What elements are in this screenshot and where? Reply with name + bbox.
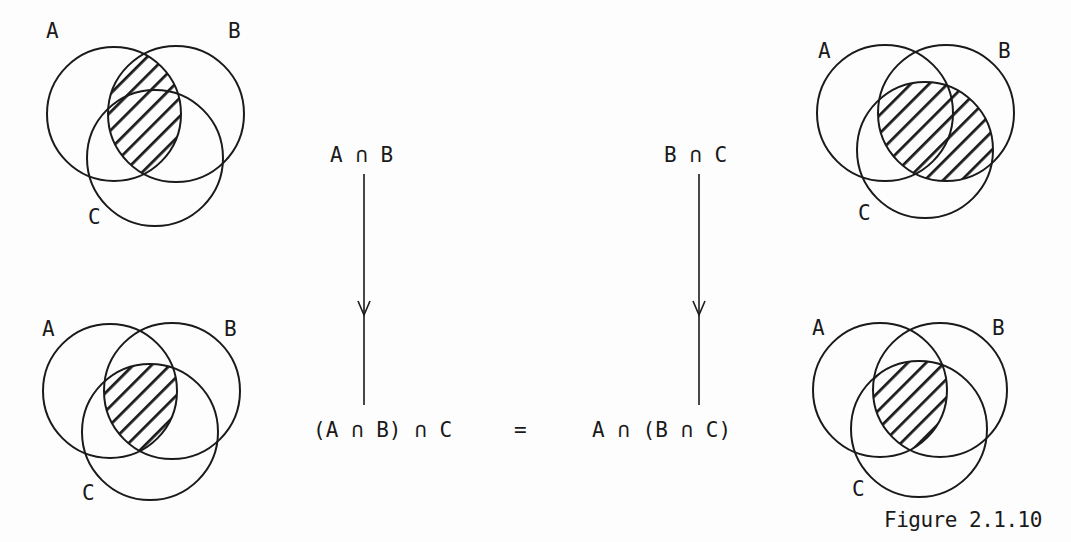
- venn-diagram-bottom-left: A B C: [42, 317, 240, 505]
- label-a: A: [812, 316, 825, 340]
- expression-a-intersect-bc: A ∩ (B ∩ C): [592, 418, 731, 442]
- label-b: B: [224, 317, 237, 341]
- venn-diagram-bottom-right: A B C: [812, 316, 1007, 501]
- expression-a-intersect-b: A ∩ B: [330, 143, 393, 167]
- arrow-right: [693, 174, 705, 405]
- label-c: C: [858, 201, 871, 225]
- figure-caption: Figure 2.1.10: [884, 508, 1042, 532]
- venn-associativity-figure: A B C A B C A B C: [0, 0, 1071, 542]
- expressions: A ∩ B B ∩ C (A ∩ B) ∩ C = A ∩ (B ∩ C): [313, 143, 731, 442]
- expression-b-intersect-c: B ∩ C: [664, 143, 727, 167]
- label-c: C: [88, 205, 101, 229]
- equals-sign: =: [514, 418, 527, 442]
- label-c: C: [82, 481, 95, 505]
- label-c: C: [852, 477, 865, 501]
- arrow-left: [358, 174, 370, 405]
- expression-ab-intersect-c: (A ∩ B) ∩ C: [313, 418, 452, 442]
- label-b: B: [228, 19, 241, 43]
- venn-diagram-top-right: A B C: [817, 39, 1014, 225]
- venn-diagram-top-left: A B C: [46, 19, 244, 229]
- label-a: A: [46, 19, 59, 43]
- label-a: A: [818, 39, 831, 63]
- label-b: B: [998, 39, 1011, 63]
- label-a: A: [42, 317, 55, 341]
- label-b: B: [992, 316, 1005, 340]
